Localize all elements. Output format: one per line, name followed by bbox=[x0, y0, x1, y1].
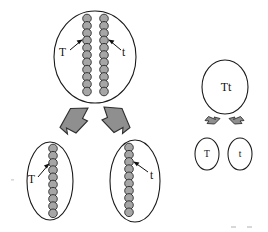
gamete-arrow-left bbox=[205, 117, 220, 125]
scan-speck bbox=[11, 179, 14, 181]
gamete-cell-T: T bbox=[195, 138, 219, 170]
daughter-cell-t-membrane bbox=[110, 140, 160, 222]
gamete-label-t: t bbox=[239, 149, 242, 159]
allele-label-T-daughter: T bbox=[28, 173, 35, 185]
chromatid-bead bbox=[100, 87, 109, 96]
division-arrow-right bbox=[102, 107, 130, 134]
daughter-cell-T: T bbox=[27, 142, 73, 220]
genotype-label-Tt: Tt bbox=[221, 80, 232, 94]
segregation-diagram: T t bbox=[0, 0, 268, 232]
gamete-cell-t: t bbox=[228, 138, 252, 170]
scan-speck bbox=[231, 226, 236, 228]
division-arrow-left bbox=[60, 108, 88, 134]
chromatid-bead bbox=[83, 87, 92, 96]
scan-speck bbox=[247, 226, 252, 228]
chromatid-bead bbox=[125, 208, 134, 217]
gamete-label-T: T bbox=[204, 149, 210, 159]
allele-label-T: T bbox=[59, 46, 66, 58]
parent-genotype-cell: Tt bbox=[202, 60, 248, 114]
diagram-canvas: T t bbox=[0, 0, 268, 232]
chromatid-bead bbox=[49, 209, 58, 218]
chromosome-T bbox=[83, 14, 92, 96]
daughter-cell-t: t bbox=[110, 140, 160, 222]
chromosome-t bbox=[100, 14, 109, 96]
chromosome-T-daughter bbox=[49, 144, 58, 217]
gamete-arrow-right bbox=[229, 117, 244, 125]
chromosome-t-daughter bbox=[125, 143, 134, 216]
parent-cell: T t bbox=[54, 11, 136, 103]
